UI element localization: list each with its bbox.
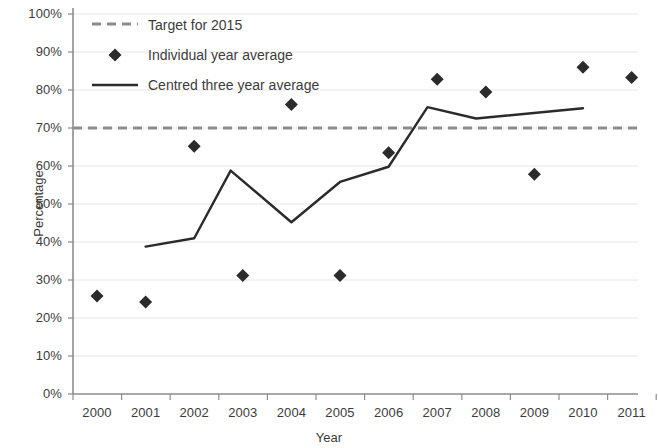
x-tick-label: 2010 (559, 405, 607, 420)
axes-group (73, 8, 638, 394)
individual-year-markers (91, 61, 639, 309)
x-tick-label: 2000 (73, 405, 121, 420)
x-tick-label: 2011 (608, 405, 656, 420)
y-tick-label: 90% (0, 44, 62, 59)
x-tick-label: 2009 (510, 405, 558, 420)
legend-markers (92, 24, 138, 85)
legend-item-individual: Individual year average (148, 47, 293, 63)
y-tick-label: 20% (0, 310, 62, 325)
y-tick-label: 70% (0, 120, 62, 135)
y-tick-label: 80% (0, 82, 62, 97)
y-tick-label: 100% (0, 6, 62, 21)
legend-item-centred: Centred three year average (148, 77, 319, 93)
data-point-marker (528, 168, 541, 181)
x-tick-label: 2002 (170, 405, 218, 420)
plot-area (0, 0, 658, 448)
data-point-marker (91, 289, 104, 302)
chart-container: 0%10%20%30%40%50%60%70%80%90%100% 200020… (0, 0, 658, 448)
x-axis-title: Year (0, 430, 658, 445)
x-tick-label: 2006 (365, 405, 413, 420)
data-point-marker (625, 71, 638, 84)
legend-diamond-icon (109, 49, 122, 62)
y-tick-label: 10% (0, 348, 62, 363)
data-point-marker (431, 73, 444, 86)
legend-item-target: Target for 2015 (148, 17, 242, 33)
x-tick-label: 2008 (462, 405, 510, 420)
data-point-marker (577, 61, 590, 74)
data-point-marker (139, 296, 152, 309)
y-tick-label: 0% (0, 386, 62, 401)
data-point-marker (188, 140, 201, 153)
x-tick-label: 2003 (219, 405, 267, 420)
x-tick-label: 2005 (316, 405, 364, 420)
x-tick-label: 2001 (122, 405, 170, 420)
data-point-marker (285, 98, 298, 111)
y-tick-label: 30% (0, 272, 62, 287)
x-tick-marks (73, 394, 656, 400)
x-tick-label: 2007 (413, 405, 461, 420)
gridlines-group (73, 14, 638, 356)
data-point-marker (382, 146, 395, 159)
y-axis-title: Percentage (31, 144, 46, 264)
x-tick-label: 2004 (267, 405, 315, 420)
data-point-marker (479, 85, 492, 98)
